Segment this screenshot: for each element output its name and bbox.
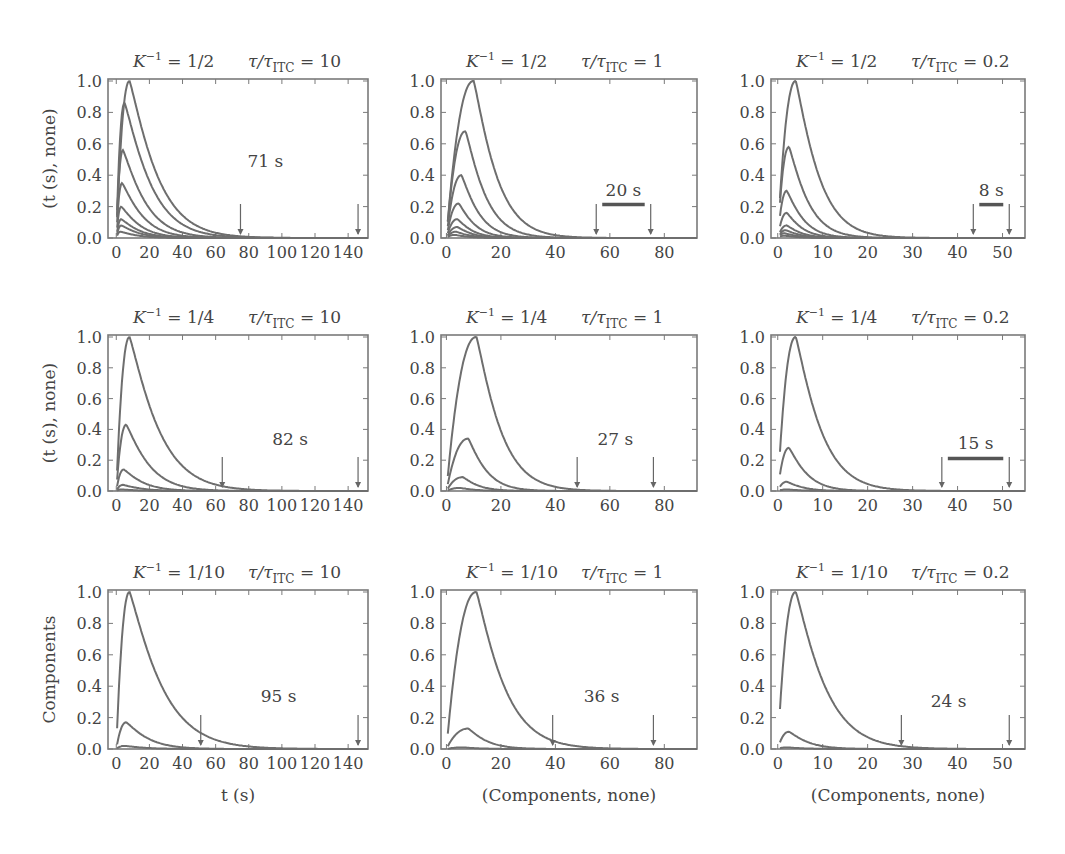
arrow-head-icon <box>650 482 656 488</box>
series-curve <box>117 592 368 749</box>
subplot-1-1: K−1 = 1/4τ/τITC = 10.00.20.40.60.81.0020… <box>410 306 697 515</box>
duration-annotation: 82 s <box>272 429 308 449</box>
series-curve <box>780 592 1025 749</box>
y-tick-label: 0.6 <box>410 646 435 665</box>
x-tick-label: 50 <box>992 754 1012 773</box>
y-tick-label: 0.6 <box>410 390 435 409</box>
x-axis-label: (Components, none) <box>811 785 985 805</box>
y-tick-label: 0.8 <box>77 614 102 633</box>
y-tick-label: 0.2 <box>77 709 102 728</box>
tau-ratio-label: τ/τITC = 1 <box>581 51 663 75</box>
x-tick-label: 50 <box>992 496 1012 515</box>
k-inverse-label: K−1 = 1/4 <box>132 306 214 327</box>
y-axis-label: Components <box>39 616 59 724</box>
y-tick-label: 0.6 <box>77 390 102 409</box>
y-tick-label: 0.4 <box>740 677 765 696</box>
x-tick-label: 140 <box>333 243 364 262</box>
x-axis-label: (Components, none) <box>482 785 656 805</box>
y-tick-label: 0.8 <box>740 359 765 378</box>
plot-frame <box>441 335 697 491</box>
y-tick-label: 0.8 <box>740 103 765 122</box>
duration-annotation: 27 s <box>597 429 633 449</box>
y-tick-label: 1.0 <box>410 328 435 347</box>
y-tick-label: 0.8 <box>740 614 765 633</box>
subplot-2-1: K−1 = 1/10τ/τITC = 10.00.20.40.60.81.002… <box>410 561 697 805</box>
y-tick-label: 0.6 <box>740 390 765 409</box>
x-tick-label: 140 <box>333 496 364 515</box>
duration-annotation: 24 s <box>931 691 967 711</box>
x-tick-label: 40 <box>947 754 967 773</box>
x-tick-label: 20 <box>857 754 877 773</box>
x-tick-label: 20 <box>491 754 511 773</box>
duration-annotation: 8 s <box>979 180 1004 200</box>
y-tick-label: 0.0 <box>740 229 765 248</box>
y-tick-label: 0.8 <box>410 103 435 122</box>
y-tick-label: 1.0 <box>740 72 765 91</box>
plot-frame <box>771 590 1025 749</box>
series-curve <box>448 592 697 749</box>
x-tick-label: 40 <box>947 243 967 262</box>
x-tick-label: 40 <box>545 243 565 262</box>
arrow-head-icon <box>648 229 654 235</box>
series-curve <box>780 448 1025 491</box>
x-tick-label: 80 <box>239 243 259 262</box>
x-tick-label: 30 <box>902 243 922 262</box>
y-tick-label: 1.0 <box>77 328 102 347</box>
arrow-head-icon <box>237 229 243 235</box>
x-tick-label: 50 <box>992 243 1012 262</box>
x-tick-label: 40 <box>172 754 192 773</box>
k-inverse-label: K−1 = 1/10 <box>465 561 558 582</box>
y-axis-label: (t (s), none) <box>39 363 59 464</box>
y-tick-label: 0.2 <box>410 709 435 728</box>
x-tick-label: 40 <box>947 496 967 515</box>
x-tick-label: 80 <box>654 496 674 515</box>
x-tick-label: 30 <box>902 754 922 773</box>
x-axis-label: t (s) <box>221 785 255 805</box>
k-inverse-label: K−1 = 1/4 <box>465 306 547 327</box>
tau-ratio-label: τ/τITC = 0.2 <box>911 562 1010 586</box>
x-tick-label: 10 <box>813 496 833 515</box>
y-tick-label: 0.0 <box>410 482 435 501</box>
x-tick-label: 40 <box>545 496 565 515</box>
y-tick-label: 0.2 <box>77 451 102 470</box>
x-tick-label: 60 <box>600 243 620 262</box>
y-tick-label: 0.8 <box>77 103 102 122</box>
series-curve <box>448 175 697 238</box>
x-tick-label: 0 <box>111 754 121 773</box>
x-tick-label: 120 <box>300 243 331 262</box>
y-tick-label: 0.6 <box>77 646 102 665</box>
x-tick-label: 0 <box>111 496 121 515</box>
k-inverse-label: K−1 = 1/4 <box>795 306 877 327</box>
x-tick-label: 30 <box>902 496 922 515</box>
x-tick-label: 120 <box>300 754 331 773</box>
series-curve <box>117 219 368 238</box>
arrow-head-icon <box>550 740 556 746</box>
arrow-head-icon <box>198 740 204 746</box>
y-tick-label: 0.0 <box>740 740 765 759</box>
subplot-2-2: K−1 = 1/10τ/τITC = 0.20.00.20.40.60.81.0… <box>740 561 1025 805</box>
x-tick-label: 60 <box>600 754 620 773</box>
plot-frame <box>771 79 1025 238</box>
y-tick-label: 0.0 <box>410 740 435 759</box>
x-tick-label: 10 <box>813 243 833 262</box>
x-tick-label: 0 <box>441 243 451 262</box>
y-tick-label: 1.0 <box>410 583 435 602</box>
arrow-head-icon <box>1006 229 1012 235</box>
x-tick-label: 20 <box>491 496 511 515</box>
y-tick-label: 1.0 <box>410 72 435 91</box>
y-tick-label: 0.6 <box>77 135 102 154</box>
x-tick-label: 80 <box>239 496 259 515</box>
series-curve <box>780 747 1025 749</box>
duration-annotation: 20 s <box>606 180 642 200</box>
y-tick-label: 0.6 <box>740 135 765 154</box>
x-tick-label: 20 <box>139 243 159 262</box>
plot-frame <box>108 335 368 491</box>
figure-grid: K−1 = 1/2τ/τITC = 100.00.20.40.60.81.002… <box>0 0 1065 854</box>
x-tick-label: 20 <box>139 496 159 515</box>
y-tick-label: 0.0 <box>740 482 765 501</box>
y-tick-label: 0.4 <box>77 677 102 696</box>
y-tick-label: 1.0 <box>77 72 102 91</box>
duration-annotation: 71 s <box>247 151 283 171</box>
duration-annotation: 36 s <box>584 686 620 706</box>
x-tick-label: 20 <box>857 496 877 515</box>
